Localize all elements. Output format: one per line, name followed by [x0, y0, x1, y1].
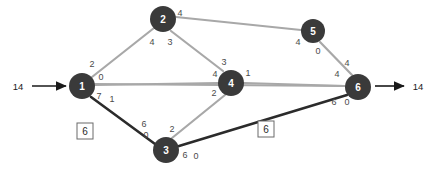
network-flow-diagram: 123456 2071434404341246060260 66 1414	[0, 0, 437, 177]
node-4[interactable]: 4	[218, 70, 244, 96]
lbl-1-3-tail2: 1	[109, 94, 114, 104]
edge-1-2	[92, 28, 154, 77]
lbl-6-1-head2: 0	[344, 97, 349, 107]
lbl-6-3-head: 6	[331, 97, 336, 107]
box-edge-1-3-text: 6	[82, 126, 88, 137]
lbl-5-2-head: 4	[295, 37, 300, 47]
node-label-5: 5	[310, 26, 316, 37]
node-label-6: 6	[355, 82, 361, 93]
lbl-3-1-head2: 0	[143, 130, 148, 140]
lbl-3-6-tail: 6	[182, 150, 187, 160]
edge-3-4	[172, 95, 225, 138]
lbl-3-4-tail: 2	[169, 124, 174, 134]
node-label-1: 1	[79, 81, 85, 92]
box-edge-1-3: 6	[77, 123, 93, 139]
node-3[interactable]: 3	[153, 137, 179, 163]
node-label-2: 2	[160, 14, 166, 25]
node-label-4: 4	[228, 78, 234, 89]
lbl-3-1-head: 6	[141, 119, 146, 129]
lbl-5-6-tail: 0	[315, 46, 320, 56]
node-label-3: 3	[163, 145, 169, 156]
sink-flow: 14	[413, 81, 424, 92]
node-1[interactable]: 1	[69, 73, 95, 99]
lbl-2-1-head: 4	[149, 37, 154, 47]
node-2[interactable]: 2	[150, 6, 176, 32]
edge-2-5	[176, 17, 301, 30]
lbl-4-3-head: 2	[211, 88, 216, 98]
node-5[interactable]: 5	[301, 19, 325, 43]
lbl-6-5-head: 4	[344, 58, 349, 68]
lbl-1-3-tail: 7	[96, 91, 101, 101]
lbl-4-2-head: 3	[221, 57, 226, 67]
box-edge-3-6-text: 6	[263, 124, 269, 135]
edge-2-4	[171, 31, 223, 71]
lbl-4-1-head: 4	[212, 69, 217, 79]
source-flow: 14	[13, 81, 24, 92]
box-edge-3-6: 6	[258, 121, 274, 137]
lbl-6-1-head: 4	[334, 69, 339, 79]
lbl-2-5-tail: 4	[177, 8, 182, 18]
lbl-1-4-tail: 0	[98, 72, 103, 82]
network-graph-canvas: 123456 2071434404341246060260 66 1414	[0, 0, 437, 177]
lbl-2-4-head: 3	[167, 37, 172, 47]
lbl-3-6-tail2: 0	[193, 151, 198, 161]
lbl-4-6-tail: 1	[245, 68, 250, 78]
lbl-1-2-tail: 2	[89, 59, 94, 69]
